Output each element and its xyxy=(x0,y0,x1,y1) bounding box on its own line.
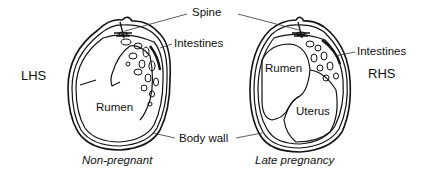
non-pregnant-section xyxy=(68,17,170,150)
lhs-label: LHS xyxy=(21,69,46,82)
cross-section-diagram xyxy=(0,0,426,178)
uterus-label: Uterus xyxy=(296,106,330,118)
non-pregnant-caption: Non-pregnant xyxy=(82,155,152,167)
rumen-left-label: Rumen xyxy=(96,102,133,114)
rhs-label: RHS xyxy=(368,67,395,80)
spine-label: Spine xyxy=(192,7,221,19)
intestines-left-label: Intestines xyxy=(174,38,223,50)
body-wall-label: Body wall xyxy=(179,133,228,145)
late-pregnancy-section xyxy=(250,17,350,152)
rumen-right-label: Rumen xyxy=(265,63,302,75)
late-pregnancy-caption: Late pregnancy xyxy=(255,155,334,167)
intestines-right-label: Intestines xyxy=(357,46,406,58)
